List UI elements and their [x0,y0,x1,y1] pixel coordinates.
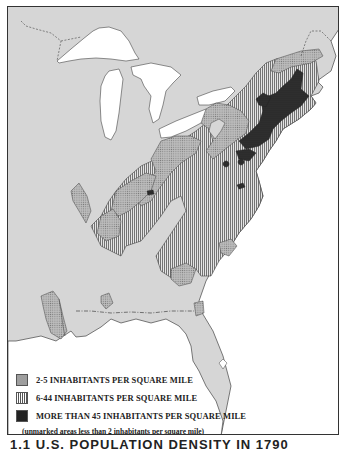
high-density-region-dot-2 [238,159,244,165]
high-density-region-kentucky [147,190,154,195]
legend-item-low-density: 2-5 INHABITANTS PER SQUARE MILE [16,371,336,389]
map-legend: 2-5 INHABITANTS PER SQUARE MILE 6-44 INH… [16,371,336,435]
vertical-lines-swatch-icon [16,392,28,404]
legend-label: 6-44 INHABITANTS PER SQUARE MILE [36,393,197,403]
dark-swatch-icon [16,410,28,422]
map-frame: 2-5 INHABITANTS PER SQUARE MILE 6-44 INH… [7,6,339,435]
figure-caption: 1.1 U.S. POPULATION DENSITY IN 1790 [10,437,289,452]
legend-note: (unmarked areas less than 2 inhabitants … [16,427,336,435]
stipple-swatch-icon [16,374,28,386]
legend-label: MORE THAN 45 INHABITANTS PER SQUARE MILE [36,411,246,421]
high-density-region-dot-1 [223,161,229,167]
legend-label: 2-5 INHABITANTS PER SQUARE MILE [36,375,193,385]
legend-item-high-density: MORE THAN 45 INHABITANTS PER SQUARE MILE [16,407,336,425]
legend-item-medium-density: 6-44 INHABITANTS PER SQUARE MILE [16,389,336,407]
low-density-region-florida-border [194,301,204,316]
